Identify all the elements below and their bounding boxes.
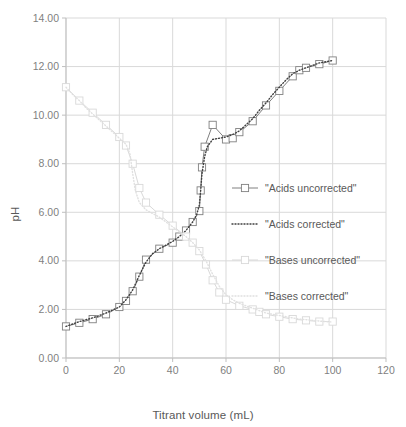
series-marker-2 [142,199,149,206]
series-marker-0 [209,121,216,128]
y-axis-title: pH [9,206,21,221]
y-tick-label: 14.00 [33,12,59,24]
legend-label-1: "Acids corrected" [265,218,345,230]
legend-label-3: "Bases corrected" [265,290,349,302]
titration-chart: 020406080100120 0.002.004.006.008.0010.0… [0,0,406,427]
y-tick-labels: 0.002.004.006.008.0010.0012.0014.00 [33,12,66,364]
series-marker-2 [102,121,109,128]
x-tick-label: 20 [113,364,125,376]
x-tick-label: 120 [377,364,395,376]
x-tick-label: 0 [63,364,69,376]
x-tick-labels: 020406080100120 [63,358,395,376]
legend-label-0: "Acids uncorrected" [265,182,357,194]
x-tick-label: 60 [220,364,232,376]
y-tick-label: 2.00 [39,303,60,315]
series-marker-0 [122,297,129,304]
y-tick-label: 4.00 [39,254,60,266]
chart-legend: "Acids uncorrected""Acids corrected""Bas… [232,182,360,302]
y-tick-label: 6.00 [39,206,60,218]
y-tick-label: 0.00 [39,352,60,364]
series-marker-0 [276,87,283,94]
series-marker-0 [129,288,136,295]
series-marker-2 [289,316,296,323]
plot-area: 020406080100120 0.002.004.006.008.0010.0… [0,0,406,427]
y-tick-label: 12.00 [33,60,59,72]
series-marker-2 [89,109,96,116]
series-marker-2 [276,313,283,320]
series-marker-2 [116,133,123,140]
x-tick-label: 80 [273,364,285,376]
legend-swatch-marker-2 [241,256,248,263]
legend-label-2: "Bases uncorrected" [265,254,360,266]
series-marker-2 [216,289,223,296]
series-marker-2 [262,311,269,318]
x-axis-title: Titrant volume (mL) [0,409,406,421]
x-tick-label: 40 [167,364,179,376]
series-marker-2 [136,184,143,191]
x-tick-label: 100 [324,364,342,376]
series-marker-2 [129,160,136,167]
y-tick-label: 8.00 [39,157,60,169]
y-tick-label: 10.00 [33,109,59,121]
legend-swatch-marker-0 [241,184,248,191]
series-marker-0 [222,136,229,143]
